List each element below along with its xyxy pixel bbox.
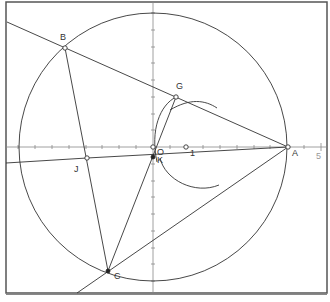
point-k[interactable]: [151, 155, 155, 159]
arc-bottom[interactable]: [160, 158, 219, 188]
point-c[interactable]: [106, 269, 110, 273]
point-a[interactable]: [286, 145, 290, 149]
bottom-divider: [6, 294, 327, 295]
label-j: J: [74, 164, 79, 174]
point-unit[interactable]: [184, 145, 188, 149]
label-unit: 1: [190, 148, 195, 158]
line-ab[interactable]: [7, 22, 288, 147]
arc-top[interactable]: [170, 102, 217, 111]
label-o: O: [157, 147, 164, 157]
label-g: G: [176, 81, 183, 91]
point-g[interactable]: [174, 95, 178, 99]
segment-left-j: [6, 158, 87, 163]
segment-cg[interactable]: [108, 97, 176, 271]
geometry-canvas[interactable]: B C G J K O 1 A 5: [0, 0, 330, 302]
point-b[interactable]: [63, 46, 67, 50]
label-b: B: [60, 32, 66, 42]
label-a: A: [292, 148, 298, 158]
point-j[interactable]: [85, 156, 89, 160]
x-axis-label-5: 5: [316, 151, 321, 161]
point-o[interactable]: [151, 145, 155, 149]
label-c: C: [114, 271, 121, 281]
